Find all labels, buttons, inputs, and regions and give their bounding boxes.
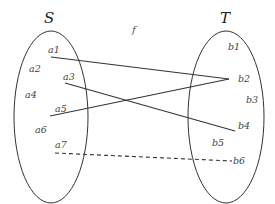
element-b6: b6 xyxy=(233,155,245,166)
element-a7: a7 xyxy=(55,139,68,150)
element-a5: a5 xyxy=(55,103,67,114)
element-b1: b1 xyxy=(228,41,240,52)
function-label: f xyxy=(131,24,138,35)
mapping-a3-b4 xyxy=(65,83,235,131)
element-a4: a4 xyxy=(25,89,37,100)
element-b2: b2 xyxy=(238,73,250,84)
mapping-a7-b6-dashed xyxy=(55,153,232,161)
element-a2: a2 xyxy=(29,63,41,74)
element-b3: b3 xyxy=(246,94,258,105)
element-a1: a1 xyxy=(48,44,60,55)
element-b4: b4 xyxy=(238,120,250,131)
element-a6: a6 xyxy=(35,124,47,135)
mapping-a1-b2 xyxy=(51,57,229,79)
function-mapping-diagram: S T f a1 a2 a3 a4 a5 a6 a7 b1 b2 b3 b4 b… xyxy=(0,0,275,204)
element-a3: a3 xyxy=(63,71,75,82)
set-t-ellipse xyxy=(188,31,264,203)
set-s-ellipse xyxy=(14,31,88,203)
element-b5: b5 xyxy=(212,137,224,148)
mapping-a5-b2 xyxy=(50,79,229,116)
set-s-label: S xyxy=(44,9,54,27)
set-t-label: T xyxy=(220,9,231,27)
